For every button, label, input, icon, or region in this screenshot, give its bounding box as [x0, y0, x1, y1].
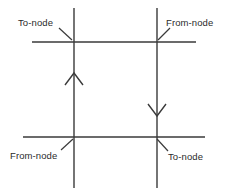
label-from-node-top-right: From-node	[166, 17, 213, 28]
leader-line-bottom-right	[157, 139, 168, 151]
link-direction-diagram: To-node From-node From-node To-node	[0, 0, 243, 195]
leader-line-top-right	[158, 28, 170, 40]
label-from-node-bottom-left: From-node	[10, 150, 57, 161]
diagram-canvas	[0, 0, 243, 195]
label-to-node-top-left: To-node	[18, 17, 53, 28]
leader-line-bottom-left	[61, 139, 73, 150]
label-to-node-bottom-right: To-node	[168, 151, 203, 162]
leader-line-top-left	[59, 28, 72, 40]
